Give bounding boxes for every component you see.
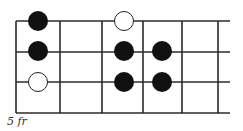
- frets: [16, 21, 218, 113]
- filled-note-dot: [114, 72, 134, 92]
- filled-note-dot: [28, 11, 48, 31]
- filled-note-dot: [152, 41, 172, 61]
- fret-position-label: 5 fr: [7, 115, 27, 128]
- filled-note-dot: [114, 41, 134, 61]
- root-note-open-dot: [115, 12, 134, 31]
- filled-note-dot: [28, 41, 48, 61]
- filled-note-dot: [152, 72, 172, 92]
- root-note-open-dot: [29, 73, 48, 92]
- fretboard: [0, 0, 243, 131]
- strings: [16, 21, 230, 113]
